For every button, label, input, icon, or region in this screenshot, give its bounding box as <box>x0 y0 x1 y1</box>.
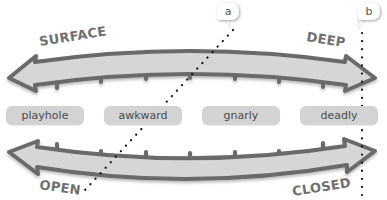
surface-label: SURFACE <box>38 24 107 49</box>
bottom-arrow-shape <box>9 139 375 179</box>
top-arrow-shape <box>9 51 375 91</box>
marker-a-bubble: a <box>217 3 239 20</box>
marker-b-bubble: b <box>358 3 380 20</box>
open-closed-arrow <box>9 139 375 179</box>
spectrum-diagram: SURFACE DEEP OPEN CLOSED playhole awkwar… <box>0 0 387 200</box>
open-label: OPEN <box>39 177 82 198</box>
closed-label: CLOSED <box>291 175 352 199</box>
surface-deep-arrow <box>9 51 375 91</box>
category-pill-awkward: awkward <box>104 106 182 125</box>
category-pill-playhole: playhole <box>6 106 84 125</box>
diagram-canvas: SURFACE DEEP OPEN CLOSED <box>0 0 387 200</box>
deep-label: DEEP <box>306 29 347 50</box>
category-pill-deadly: deadly <box>300 106 378 125</box>
category-pill-gnarly: gnarly <box>202 106 280 125</box>
